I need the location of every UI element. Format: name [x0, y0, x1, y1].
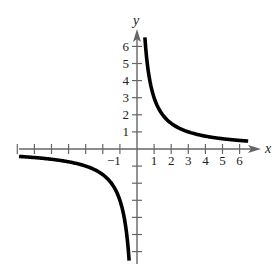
y-axis-label: y: [131, 13, 140, 28]
axes: [19, 29, 261, 264]
y-tick-label: 5: [123, 56, 130, 71]
curve-left-branch: [19, 156, 129, 260]
curve-right-branch: [145, 37, 248, 141]
x-tick-label: 1: [151, 153, 158, 168]
y-tick-label: 3: [123, 90, 130, 105]
y-tick-label: 1: [123, 124, 130, 139]
y-tick-label: 2: [123, 107, 130, 122]
x-axis-label: x: [264, 141, 272, 156]
x-tick-label: 4: [202, 153, 209, 168]
hyperbola-chart: −1123456123456 x y: [0, 0, 277, 268]
x-tick-label: 6: [236, 153, 243, 168]
y-tick-label: 4: [123, 73, 130, 88]
x-tick-label: −1: [107, 153, 121, 168]
x-tick-label: 5: [219, 153, 226, 168]
x-tick-label: 3: [185, 153, 192, 168]
y-tick-label: 6: [123, 39, 130, 54]
x-tick-label: 2: [168, 153, 175, 168]
